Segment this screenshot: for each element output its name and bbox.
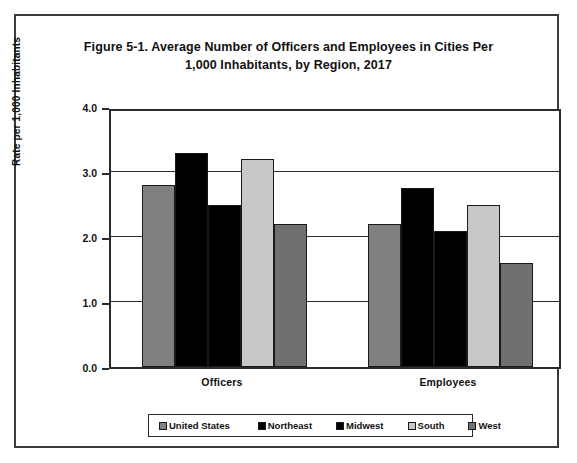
legend-label: Midwest <box>346 420 383 431</box>
legend-swatch-icon <box>159 422 167 430</box>
plot-area <box>109 109 561 369</box>
bar-officers-south <box>241 159 274 367</box>
y-tick-mark-3.0 <box>102 173 109 175</box>
x-axis-label-officers: Officers <box>109 376 335 388</box>
y-tick-mark-4.0 <box>102 108 109 110</box>
chart-title-line-1: Figure 5-1. Average Number of Officers a… <box>56 38 521 56</box>
chart-title-line-2: 1,000 Inhabitants, by Region, 2017 <box>56 56 521 74</box>
legend-swatch-icon <box>468 422 476 430</box>
legend-entry-united-states[interactable]: United States <box>159 420 230 431</box>
y-tick-label-2.0: 2.0 <box>57 232 97 244</box>
bar-officers-northeast <box>175 153 208 368</box>
bar-employees-united-states <box>368 224 401 367</box>
legend-label: South <box>418 420 445 431</box>
bar-employees-midwest <box>434 231 467 368</box>
legend-entry-northeast[interactable]: Northeast <box>258 420 312 431</box>
chart-title: Figure 5-1. Average Number of Officers a… <box>56 38 521 74</box>
y-tick-mark-0.0 <box>102 368 109 370</box>
bar-employees-south <box>467 205 500 368</box>
y-tick-label-4.0: 4.0 <box>57 102 97 114</box>
legend-entry-west[interactable]: West <box>468 420 501 431</box>
y-tick-mark-1.0 <box>102 303 109 305</box>
bars-layer <box>111 111 559 367</box>
y-tick-label-1.0: 1.0 <box>57 297 97 309</box>
y-tick-label-3.0: 3.0 <box>57 167 97 179</box>
legend-label: Northeast <box>268 420 312 431</box>
bar-employees-west <box>500 263 533 367</box>
legend-label: West <box>478 420 501 431</box>
bar-employees-northeast <box>401 188 434 367</box>
legend-entry-south[interactable]: South <box>408 420 445 431</box>
bar-officers-midwest <box>208 205 241 368</box>
y-tick-mark-2.0 <box>102 238 109 240</box>
y-tick-label-0.0: 0.0 <box>57 362 97 374</box>
x-axis-label-employees: Employees <box>335 376 561 388</box>
bar-officers-united-states <box>142 185 175 367</box>
legend-entry-midwest[interactable]: Midwest <box>336 420 383 431</box>
chart-legend: United StatesNortheastMidwestSouthWest <box>148 414 473 437</box>
legend-swatch-icon <box>258 422 266 430</box>
legend-swatch-icon <box>408 422 416 430</box>
figure-frame: Figure 5-1. Average Number of Officers a… <box>14 14 559 448</box>
legend-label: United States <box>169 420 230 431</box>
legend-swatch-icon <box>336 422 344 430</box>
bar-officers-west <box>274 224 307 367</box>
y-axis-title: Rate per 1,000 Inhabitants <box>11 0 22 166</box>
